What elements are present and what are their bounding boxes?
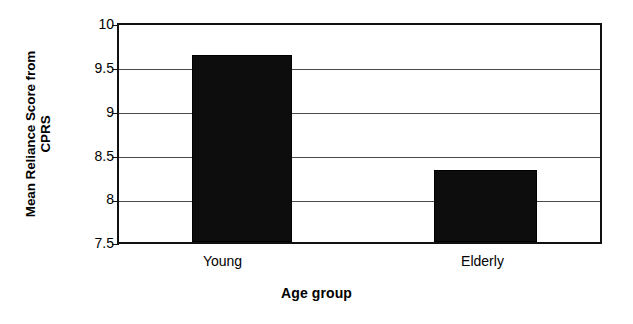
y-tickmark-8.5 [112,157,119,158]
bar-young[interactable] [192,55,292,242]
y-axis-title-line-2: CPRS [38,51,53,217]
x-tick-label-young: Young [140,253,305,269]
x-tick-label-elderly: Elderly [400,253,565,269]
y-tickmark-8 [112,201,119,202]
y-tick-label-9: 9 [72,105,114,119]
y-tick-label-10: 10 [72,17,114,31]
y-tick-label-8: 8 [72,192,114,206]
y-tick-label-9.5: 9.5 [72,61,114,75]
y-axis-title-line-1: Mean Reliance Score from [23,51,38,217]
y-axis-title: Mean Reliance Score from CPRS [8,18,68,250]
chart-figure: Mean Reliance Score from CPRS 10 9.5 9 8… [0,0,633,324]
y-axis-title-text: Mean Reliance Score from CPRS [23,51,53,217]
bar-elderly[interactable] [434,170,537,242]
x-axis-title: Age group [0,285,633,301]
y-axis-tick-labels: 10 9.5 9 8.5 8 7.5 [70,0,114,324]
y-tickmark-9 [112,113,119,114]
y-tickmark-9.5 [112,69,119,70]
y-tickmark-7.5 [112,244,119,245]
y-tickmark-10 [112,25,119,26]
y-tick-label-7.5: 7.5 [72,236,114,250]
y-tick-label-8.5: 8.5 [72,149,114,163]
plot-area [117,23,602,244]
